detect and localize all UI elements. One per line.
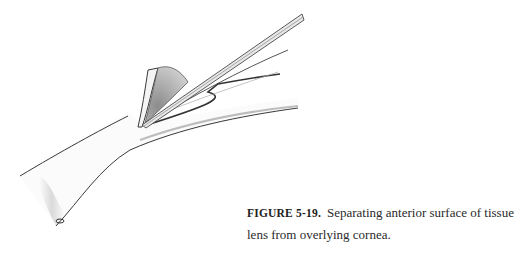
figure-caption: FIGURE 5-19.Separating anterior surface …: [247, 202, 527, 245]
figure-label: FIGURE 5-19.: [247, 207, 321, 219]
figure: FIGURE 5-19.Separating anterior surface …: [0, 0, 527, 263]
